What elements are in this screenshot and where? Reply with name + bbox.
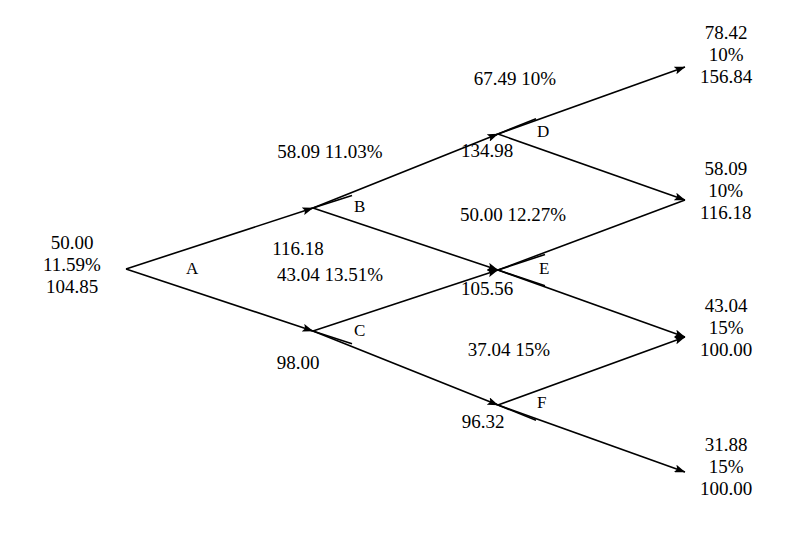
node-C-rate: 13.51%: [324, 264, 383, 285]
node-F-rate: 15%: [515, 339, 550, 360]
node-label-F: F: [537, 394, 546, 411]
root-price: 50.00: [43, 232, 101, 254]
node-C-below: 98.00: [277, 352, 320, 374]
root-value-block: 50.00 11.59% 104.85: [43, 232, 101, 298]
node-label-A: A: [186, 260, 198, 277]
edge-F-to-terminal-4: [498, 405, 685, 472]
node-C-price: 43.04: [277, 264, 320, 285]
node-F-price: 37.04: [468, 339, 511, 360]
terminal-3-value-block: 43.04 15% 100.00: [700, 295, 752, 361]
terminal-2-rate: 10%: [700, 180, 752, 202]
terminal-1-rate: 10%: [700, 44, 752, 66]
node-B-price: 58.09: [277, 141, 320, 162]
node-D-rate: 10%: [521, 68, 556, 89]
root-rate: 11.59%: [43, 254, 101, 276]
node-F-above: 37.04 15%: [468, 339, 550, 361]
terminal-2-price: 58.09: [700, 158, 752, 180]
node-F-below: 96.32: [462, 411, 505, 433]
terminal-4-rate: 15%: [700, 456, 752, 478]
edge-E-to-terminal-3: [498, 270, 685, 337]
terminal-1-price: 78.42: [700, 22, 752, 44]
node-E-above: 50.00 12.27%: [460, 204, 566, 226]
node-B-rate: 11.03%: [325, 141, 383, 162]
terminal-4-value-block: 31.88 15% 100.00: [700, 434, 752, 500]
terminal-1-value: 156.84: [700, 66, 752, 88]
terminal-2-value-block: 58.09 10% 116.18: [700, 158, 752, 224]
node-D-above: 67.49 10%: [474, 68, 556, 90]
node-E-below: 105.56: [461, 278, 513, 300]
terminal-3-price: 43.04: [700, 295, 752, 317]
node-D-price: 67.49: [474, 68, 517, 89]
node-label-B: B: [354, 198, 365, 215]
node-E-rate: 12.27%: [507, 204, 566, 225]
edge-D-to-terminal-2: [498, 134, 685, 200]
node-B-above: 58.09 11.03%: [277, 141, 382, 163]
node-label-E: E: [539, 260, 549, 277]
lattice-edges: [0, 0, 786, 536]
node-label-D: D: [537, 123, 549, 140]
root-value: 104.85: [43, 276, 101, 298]
terminal-4-price: 31.88: [700, 434, 752, 456]
node-D-below: 134.98: [461, 140, 513, 162]
terminal-4-value: 100.00: [700, 478, 752, 500]
node-E-price: 50.00: [460, 204, 503, 225]
terminal-2-value: 116.18: [700, 202, 752, 224]
node-C-above: 43.04 13.51%: [277, 264, 383, 286]
binomial-lattice-diagram: 50.00 11.59% 104.85 A 58.09 11.03% 116.1…: [0, 0, 786, 536]
node-B-below: 116.18: [272, 238, 324, 260]
node-label-C: C: [354, 322, 365, 339]
terminal-3-rate: 15%: [700, 317, 752, 339]
terminal-1-value-block: 78.42 10% 156.84: [700, 22, 752, 88]
terminal-3-value: 100.00: [700, 339, 752, 361]
